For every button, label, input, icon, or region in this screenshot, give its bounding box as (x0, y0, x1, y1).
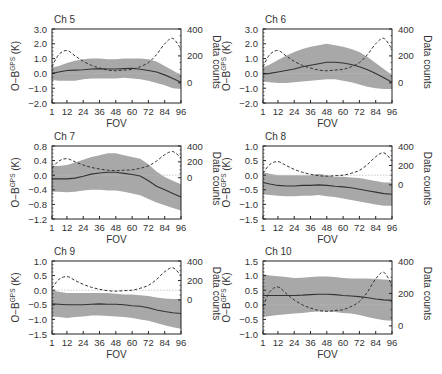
panel-title: Ch 5 (54, 14, 76, 25)
x-tick-label: 36 (94, 337, 105, 348)
y-axis-label-right: Data counts (422, 152, 433, 205)
y-axis-label-left: O−BGPS (K) (9, 41, 21, 91)
std-band (52, 153, 181, 210)
x-axis-label: FOV (106, 234, 127, 245)
y-axis-label-left: O−BGPS (K) (220, 41, 232, 91)
x-tick-label: 12 (273, 337, 284, 348)
y-tick-label: 0.0 (245, 170, 258, 181)
y-tick-label: −0.4 (28, 184, 47, 195)
y2-tick-label: 0 (187, 294, 192, 305)
x-tick-label: 24 (78, 106, 89, 117)
chart-canvas: −2.0−1.00.01.02.03.002004001122436486072… (0, 0, 442, 374)
x-tick-label: 36 (305, 337, 316, 348)
y2-tick-label: 400 (187, 24, 203, 35)
y2-tick-label: 0 (187, 77, 192, 88)
panel-title: Ch 7 (54, 131, 76, 142)
y2-tick-label: 0 (187, 172, 192, 183)
y-label-suffix: (K) (10, 41, 21, 57)
y-tick-label: 3.0 (34, 24, 47, 35)
y-axis-label-left: O−BGPS (K) (220, 157, 232, 207)
y-tick-label: −2.0 (239, 98, 258, 109)
y-tick-label: 0.5 (245, 155, 258, 166)
panel-title: Ch 8 (265, 131, 287, 142)
y-label-sup: GPS (9, 288, 16, 302)
x-tick-label: 1 (49, 222, 54, 233)
x-tick-label: 96 (176, 222, 187, 233)
y-label-prefix: O−B (10, 187, 21, 208)
y2-tick-label: 200 (398, 160, 414, 171)
y-tick-label: 2.0 (245, 38, 258, 49)
y2-tick-label: 0 (398, 320, 403, 331)
x-tick-label: 84 (159, 222, 170, 233)
x-tick-label: 24 (289, 337, 300, 348)
y-label-prefix: O−B (221, 187, 232, 208)
y-tick-label: 1.0 (245, 270, 258, 281)
x-tick-label: 12 (62, 106, 73, 117)
x-tick-label: 36 (305, 106, 316, 117)
y-tick-label: 0.0 (34, 68, 47, 79)
y-label-prefix: O−B (221, 302, 232, 323)
y-tick-label: −1.0 (28, 83, 47, 94)
y2-tick-label: 200 (398, 288, 414, 299)
x-tick-label: 12 (62, 222, 73, 233)
x-tick-label: 96 (176, 337, 187, 348)
y-axis-label-left: O−BGPS (K) (9, 157, 21, 207)
x-tick-label: 84 (370, 222, 381, 233)
x-tick-label: 72 (143, 337, 154, 348)
panel-ch-9: −1.5−1.0−0.50.00.51.00200400112243648607… (9, 246, 222, 360)
x-tick-label: 84 (370, 106, 381, 117)
x-tick-label: 36 (94, 106, 105, 117)
x-axis-label: FOV (317, 349, 338, 360)
x-tick-label: 84 (370, 337, 381, 348)
x-axis-label: FOV (106, 349, 127, 360)
x-tick-label: 1 (260, 222, 265, 233)
y-tick-label: 1.0 (245, 141, 258, 152)
panel-ch-7: −1.2−0.8−0.40.00.40.80200400112243648607… (9, 131, 222, 245)
x-tick-label: 48 (322, 222, 333, 233)
y-tick-label: 1.0 (245, 53, 258, 64)
data-counts-line (263, 153, 392, 176)
y2-tick-label: 400 (398, 141, 414, 152)
x-tick-label: 96 (176, 106, 187, 117)
y-label-sup: GPS (220, 173, 227, 187)
y-tick-label: 0.0 (245, 299, 258, 310)
x-tick-label: 1 (49, 106, 54, 117)
x-tick-label: 12 (273, 106, 284, 117)
std-band (52, 290, 181, 329)
std-band (263, 44, 392, 89)
y-label-sup: GPS (9, 173, 16, 187)
x-tick-label: 60 (338, 106, 349, 117)
y-label-sup: GPS (220, 56, 227, 70)
y-tick-label: 0.5 (245, 285, 258, 296)
x-axis-label: FOV (106, 118, 127, 129)
y-tick-label: 0.8 (34, 141, 47, 152)
y-tick-label: −1.0 (239, 199, 258, 210)
panel-title: Ch 10 (265, 246, 292, 257)
x-tick-label: 60 (127, 337, 138, 348)
y-tick-label: −2.0 (28, 98, 47, 109)
x-tick-label: 48 (111, 106, 122, 117)
y-tick-label: −0.8 (28, 199, 47, 210)
x-tick-label: 48 (322, 106, 333, 117)
x-tick-label: 96 (387, 106, 398, 117)
x-tick-label: 12 (62, 337, 73, 348)
y2-tick-label: 200 (187, 156, 203, 167)
y-tick-label: 0.0 (34, 285, 47, 296)
y-label-sup: GPS (220, 288, 227, 302)
y-tick-label: −1.0 (28, 314, 47, 325)
x-tick-label: 72 (354, 106, 365, 117)
x-tick-label: 84 (159, 337, 170, 348)
y-tick-label: −0.5 (239, 314, 258, 325)
y2-tick-label: 400 (187, 256, 203, 267)
y-tick-label: 3.0 (245, 24, 258, 35)
y-label-sup: GPS (9, 56, 16, 70)
x-tick-label: 60 (127, 222, 138, 233)
y-tick-label: 1.5 (245, 256, 258, 267)
panel-ch-5: −2.0−1.00.01.02.03.002004001122436486072… (9, 14, 222, 129)
y-label-prefix: O−B (10, 70, 21, 91)
panel-ch-6: −2.0−1.00.01.02.03.002004001122436486072… (220, 14, 433, 129)
figure: −2.0−1.00.01.02.03.002004001122436486072… (0, 0, 442, 374)
y-tick-label: −0.5 (239, 184, 258, 195)
panel-ch-8: −1.5−1.0−0.50.00.51.00200400112243648607… (220, 131, 433, 245)
panel-title: Ch 9 (54, 246, 76, 257)
